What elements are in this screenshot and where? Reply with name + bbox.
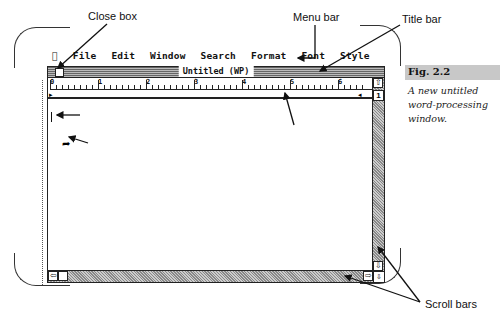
callout-arrows	[0, 0, 501, 318]
